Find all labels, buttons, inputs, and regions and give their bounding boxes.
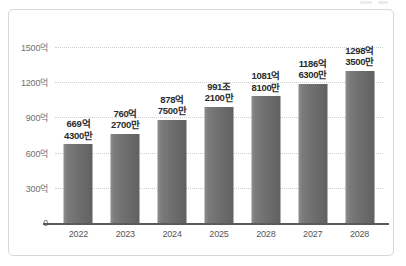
y-axis-tick-label: 300억 bbox=[26, 181, 48, 194]
bar-slot: 669억4300만 bbox=[55, 24, 102, 223]
bar[interactable] bbox=[204, 107, 233, 223]
bar-value-label-line1: 1081억 bbox=[252, 70, 281, 81]
bar-slot: 760억2700만 bbox=[102, 24, 149, 223]
bar-value-label: 1298억3500만 bbox=[345, 45, 374, 68]
bar-value-label-line2: 2100만 bbox=[205, 92, 234, 104]
y-axis-tick-label: 1200억 bbox=[21, 76, 48, 89]
x-axis-category-label: 2028 bbox=[242, 229, 289, 239]
x-axis-category-label: 2025 bbox=[196, 229, 243, 239]
bar-value-label-line1: 1298억 bbox=[345, 45, 374, 56]
bar-value-label: 1081억8100만 bbox=[252, 70, 281, 93]
bar[interactable] bbox=[111, 134, 140, 223]
bar-value-label-line1: 669억 bbox=[67, 118, 91, 129]
x-axis-line bbox=[43, 223, 389, 225]
bar[interactable] bbox=[345, 71, 374, 223]
bar-value-label-line1: 878억 bbox=[160, 94, 184, 105]
bar-value-label-line2: 4300만 bbox=[64, 130, 93, 142]
bar-value-label: 991조2100만 bbox=[205, 81, 234, 104]
bar-value-label-line2: 6300만 bbox=[298, 69, 327, 81]
bar-value-label: 1186억6300만 bbox=[298, 58, 327, 81]
bar-value-label-line2: 3500만 bbox=[345, 56, 374, 68]
y-axis-tick-label: 900억 bbox=[26, 111, 48, 124]
bar-slot: 1298억3500만 bbox=[336, 24, 383, 223]
x-axis-category-label: 2027 bbox=[289, 229, 336, 239]
bar-slot: 878억7500만 bbox=[149, 24, 196, 223]
bar-slot: 991조2100만 bbox=[196, 24, 243, 223]
plot-area: 0300억600억900억1200억1500억 669억4300만760억270… bbox=[55, 24, 383, 230]
bar[interactable] bbox=[64, 144, 93, 223]
x-axis-category-label: 2022 bbox=[55, 229, 102, 239]
bar-value-label-line2: 7500만 bbox=[158, 105, 187, 117]
x-axis-category-label: 2028 bbox=[336, 229, 383, 239]
y-axis-tick-label: 1500억 bbox=[21, 41, 48, 54]
page-top-artifact-b bbox=[378, 1, 388, 4]
bar-slot: 1186억6300만 bbox=[289, 24, 336, 223]
bars-group: 669억4300만760억2700만878억7500만991조2100만1081… bbox=[55, 24, 383, 223]
x-axis-category-label: 2024 bbox=[149, 229, 196, 239]
bar-value-label: 669억4300만 bbox=[64, 118, 93, 141]
bar-chart-card: 0300억600억900억1200억1500억 669억4300만760억270… bbox=[8, 9, 394, 256]
bar-value-label: 760억2700만 bbox=[111, 108, 140, 131]
bar-value-label-line1: 760억 bbox=[113, 108, 137, 119]
bar-value-label-line2: 8100만 bbox=[252, 82, 281, 94]
bar-slot: 1081억8100만 bbox=[242, 24, 289, 223]
bar[interactable] bbox=[298, 84, 327, 223]
bar-value-label: 878억7500만 bbox=[158, 94, 187, 117]
category-labels-group: 2022202320242025202820272028 bbox=[55, 229, 383, 245]
x-axis-category-label: 2023 bbox=[102, 229, 149, 239]
bar-value-label-line2: 2700만 bbox=[111, 119, 140, 131]
page-top-artifact-a bbox=[360, 1, 372, 4]
y-axis-tick-label: 600억 bbox=[26, 146, 48, 159]
bar-value-label-line1: 1186억 bbox=[299, 58, 327, 69]
bar[interactable] bbox=[158, 120, 187, 223]
bar[interactable] bbox=[251, 96, 280, 223]
bar-value-label-line1: 991조 bbox=[207, 81, 231, 92]
